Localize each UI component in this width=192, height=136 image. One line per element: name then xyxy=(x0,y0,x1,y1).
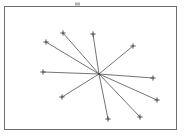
top-edge-smudge-mark xyxy=(75,3,80,6)
radial-star-figure xyxy=(0,0,192,136)
figure-root xyxy=(0,0,192,136)
border-frame xyxy=(5,7,177,130)
center-hub-dot xyxy=(98,73,100,75)
